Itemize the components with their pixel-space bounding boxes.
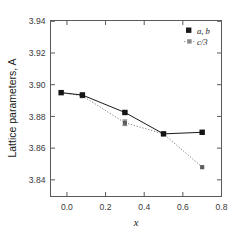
x-axis-title: x <box>133 217 139 228</box>
plot-frame <box>51 21 222 197</box>
y-tick-label: 3.94 <box>29 16 46 26</box>
legend-marker-ab <box>186 28 191 33</box>
legend-label-ab: a, b <box>197 26 211 36</box>
data-point-marker <box>122 110 127 115</box>
data-point-marker <box>161 131 166 136</box>
y-tick-label: 3.92 <box>29 48 46 58</box>
lattice-parameters-line-chart: 0.00.20.40.60.8 3.843.863.883.903.923.94… <box>0 0 244 237</box>
y-tick-label: 3.90 <box>29 80 46 90</box>
x-tick-label: 0.6 <box>177 202 189 212</box>
data-point-marker <box>123 121 127 125</box>
data-point-marker <box>199 130 204 135</box>
x-tick-label: 0.2 <box>100 202 112 212</box>
legend-label-c3: c/3 <box>197 37 208 47</box>
y-tick-label: 3.86 <box>29 143 46 153</box>
legend-marker-c3 <box>187 39 191 43</box>
chart-figure: 0.00.20.40.60.8 3.843.863.883.903.923.94… <box>0 0 244 237</box>
y-axis-title: Lattice parameters, A <box>6 58 18 157</box>
y-tick-label: 3.84 <box>29 175 46 185</box>
data-point-marker <box>80 92 85 97</box>
x-tick-label: 0.4 <box>138 202 150 212</box>
data-point-marker <box>58 90 63 95</box>
x-tick-label: 0.8 <box>216 202 228 212</box>
data-point-marker <box>200 165 204 169</box>
y-tick-label: 3.88 <box>29 112 46 122</box>
x-tick-label: 0.0 <box>61 202 73 212</box>
